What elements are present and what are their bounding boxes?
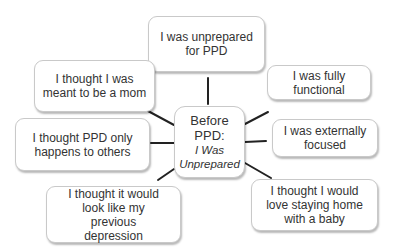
connector-right — [245, 141, 266, 142]
node-label: I thought I would love staying home with… — [256, 184, 373, 226]
connector-upper-right — [245, 112, 268, 124]
node-label: I thought it would look like my previous… — [51, 187, 176, 243]
node-label: I was unprepared for PPD — [153, 30, 260, 58]
node-label: I thought I was meant to be a mom — [39, 72, 150, 100]
node-externally-focused: I was externally focused — [272, 119, 378, 157]
node-label: I thought PPD only happens to others — [20, 131, 145, 159]
connector-lower-right — [245, 163, 271, 178]
node-fully-functional: I was fully functional — [267, 65, 371, 100]
node-unprepared-for-ppd: I was unprepared for PPD — [148, 16, 265, 72]
node-ppd-happens-to-others: I thought PPD only happens to others — [15, 118, 150, 171]
center-subtitle: I Was Unprepared — [179, 143, 240, 171]
node-previous-depression: I thought it would look like my previous… — [46, 186, 181, 243]
center-node: Before PPD: I Was Unprepared — [174, 106, 245, 178]
center-title: Before PPD: — [179, 113, 240, 143]
node-meant-to-be-a-mom: I thought I was meant to be a mom — [34, 60, 155, 112]
node-love-staying-home: I thought I would love staying home with… — [251, 179, 378, 231]
node-label: I was fully functional — [272, 69, 366, 97]
connector-lower-left — [158, 169, 174, 180]
connector-upper-left — [148, 111, 174, 125]
node-label: I was externally focused — [277, 124, 373, 152]
